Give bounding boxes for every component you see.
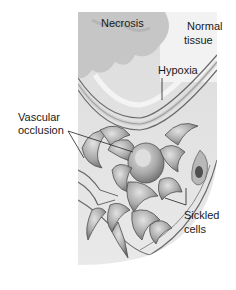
sickled-cells-label-line1: Sickled: [184, 209, 219, 222]
hypoxia-label: Hypoxia: [158, 64, 198, 77]
vascular-occlusion-label-line2: occlusion: [18, 124, 64, 137]
necrosis-label: Necrosis: [101, 17, 144, 30]
normal-tissue-label-line2: tissue: [184, 34, 213, 47]
diagram-figure: Necrosis Normal tissue Hypoxia Vascular …: [0, 0, 236, 290]
normal-tissue-label-line1: Normal: [187, 20, 222, 33]
sickled-cells-label-line2: cells: [184, 223, 206, 236]
vascular-occlusion-label-line1: Vascular: [18, 111, 60, 124]
